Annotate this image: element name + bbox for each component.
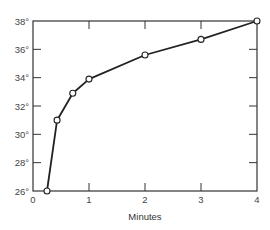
y-tick-label: 34° xyxy=(15,72,30,83)
x-tick-label: 4 xyxy=(254,194,259,205)
data-point-marker xyxy=(86,76,92,82)
y-tick-label: 26° xyxy=(15,186,30,197)
data-point-marker xyxy=(142,52,148,58)
x-tick-label: 0 xyxy=(30,194,35,205)
data-point-marker xyxy=(254,18,260,24)
x-axis-ticks: 01234 xyxy=(30,21,259,205)
x-tick-label: 2 xyxy=(142,194,147,205)
y-tick-label: 36° xyxy=(15,44,30,55)
data-point-marker xyxy=(44,188,50,194)
y-tick-label: 32° xyxy=(15,101,30,112)
plot-frame xyxy=(33,21,257,191)
x-tick-label: 3 xyxy=(198,194,203,205)
x-tick-label: 1 xyxy=(86,194,91,205)
y-tick-label: 30° xyxy=(15,129,30,140)
data-point-marker xyxy=(70,90,76,96)
series-line xyxy=(47,21,257,191)
x-axis-title: Minutes xyxy=(128,211,162,222)
data-point-marker xyxy=(198,36,204,42)
line-chart: 26°28°30°32°34°36°38° 01234 Minutes xyxy=(0,0,270,230)
y-tick-label: 28° xyxy=(15,157,30,168)
y-tick-label: 38° xyxy=(15,16,30,27)
data-point-marker xyxy=(54,117,60,123)
plot-border xyxy=(33,21,257,191)
data-series xyxy=(44,18,260,194)
